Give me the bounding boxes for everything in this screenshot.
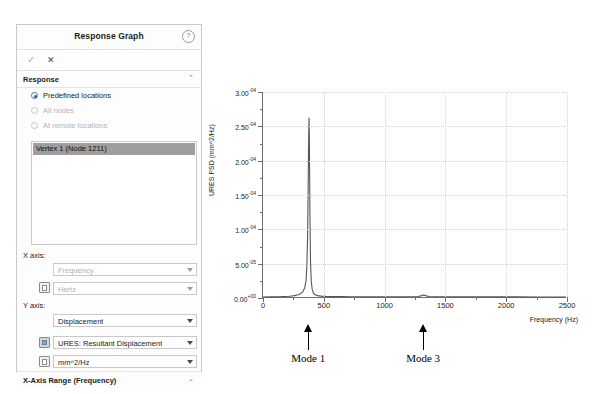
chevron-down-icon[interactable] (187, 319, 193, 323)
close-icon[interactable]: ✕ (45, 54, 57, 66)
radio-indicator (31, 107, 38, 114)
y-axis-tick (258, 264, 263, 265)
help-icon[interactable]: ? (182, 30, 195, 43)
gridline-vertical (385, 92, 386, 297)
radio-label: At remote locations (43, 121, 107, 130)
gridline-horizontal (263, 195, 566, 196)
y-axis-tick (258, 92, 263, 93)
locations-listbox[interactable]: Vertex 1 (Node 1211) (31, 141, 197, 245)
y-axis-tick (258, 126, 263, 127)
radio-indicator (31, 92, 38, 99)
gridline-horizontal (263, 92, 566, 93)
y-axis-minor-tick (260, 178, 263, 179)
radio-indicator (31, 122, 38, 129)
radio-label: Predefined locations (43, 91, 111, 100)
gridline-horizontal (263, 264, 566, 265)
unit-icon (39, 356, 50, 367)
x-axis-tick-label: 2500 (559, 301, 576, 310)
x-axis-tick-label: 0 (261, 301, 265, 310)
y-axis-minor-tick (260, 212, 263, 213)
x-axis-title: Frequency (Hz) (530, 316, 578, 323)
gridline-vertical (445, 92, 446, 297)
y-unit-select[interactable]: mm^2/Hz (53, 355, 197, 368)
gridline-horizontal (263, 229, 566, 230)
gridline-vertical (324, 92, 325, 297)
y-axis-tick-label: 1.50-04 (235, 190, 256, 199)
x-axis-tick-label: 1000 (376, 301, 393, 310)
list-item[interactable]: Vertex 1 (Node 1211) (33, 143, 195, 155)
response-graph-property-panel: Response Graph ? ✓ ✕ Response ⌃ Predefin… (16, 24, 202, 372)
arrow-shaft (308, 330, 310, 350)
x-unit-value: Hertz (58, 285, 76, 294)
section-header-response[interactable]: Response ⌃ (17, 71, 201, 88)
x-quantity-select[interactable]: Frequency (53, 263, 197, 276)
y-component-select[interactable]: URES: Resultant Displacement (53, 336, 197, 349)
chevron-down-icon[interactable] (187, 287, 193, 291)
mode-3-arrow (418, 324, 429, 350)
gridline-vertical (567, 92, 568, 297)
chevron-down-icon[interactable] (187, 268, 193, 272)
x-unit-select[interactable]: Hertz (53, 282, 197, 295)
panel-header: Response Graph ? (17, 25, 201, 50)
gridline-horizontal (263, 126, 566, 127)
radio-at-remote-locations[interactable]: At remote locations (17, 118, 201, 133)
x-axis-minor-tick (476, 297, 477, 300)
radio-all-nodes[interactable]: All nodes (17, 103, 201, 118)
plot-area: 0.00+005.00-051.00-041.50-042.00-042.50-… (262, 92, 566, 298)
x-axis-minor-tick (293, 297, 294, 300)
unit-icon (39, 282, 50, 293)
y-axis-tick (258, 161, 263, 162)
chevron-down-icon[interactable]: ⌄ (188, 375, 194, 383)
chevron-down-icon[interactable] (187, 360, 193, 364)
mode-1-arrow (303, 324, 314, 350)
y-axis-label: Y axis: (23, 301, 45, 310)
y-quantity-value: Displacement (58, 317, 103, 326)
y-axis-minor-tick (260, 144, 263, 145)
x-quantity-value: Frequency (58, 266, 93, 275)
y-axis-tick-label: 2.00-04 (235, 156, 256, 165)
y-axis-tick (258, 195, 263, 196)
y-component-value: URES: Resultant Displacement (58, 339, 162, 348)
y-axis-title: URES PSD (mm^2/Hz) (208, 124, 215, 196)
gridline-horizontal (263, 161, 566, 162)
x-axis-minor-tick (354, 297, 355, 300)
x-axis-minor-tick (537, 297, 538, 300)
page-title: Response Graph (17, 31, 201, 41)
y-axis-tick-label: 2.50-04 (235, 122, 256, 131)
x-axis-label: X axis: (23, 251, 46, 260)
confirm-check-icon[interactable]: ✓ (25, 54, 37, 66)
section-label: Response (23, 75, 59, 84)
mode-3-label: Mode 3 (406, 352, 440, 364)
x-axis-tick-label: 500 (318, 301, 331, 310)
panel-action-bar: ✓ ✕ (17, 50, 201, 71)
y-axis-tick-label: 0.00+00 (234, 293, 256, 302)
y-quantity-select[interactable]: Displacement (53, 314, 197, 327)
gridline-vertical (506, 92, 507, 297)
y-axis-minor-tick (260, 247, 263, 248)
y-axis-tick-label: 3.00-04 (235, 87, 256, 96)
response-graph-chart: URES PSD (mm^2/Hz) Frequency (Hz) 0.00+0… (206, 78, 578, 333)
arrow-shaft (423, 330, 425, 350)
y-axis-minor-tick (260, 281, 263, 282)
x-axis-tick-label: 2000 (498, 301, 515, 310)
section-label: X-Axis Range (Frequency) (23, 376, 116, 385)
x-axis-tick-label: 1500 (437, 301, 454, 310)
section-header-x-axis-range[interactable]: X-Axis Range (Frequency) ⌄ (17, 371, 201, 388)
result-component-icon (39, 337, 50, 348)
radio-label: All nodes (43, 106, 74, 115)
y-unit-value: mm^2/Hz (58, 358, 89, 367)
y-axis-tick-label: 1.00-04 (235, 225, 256, 234)
y-axis-tick (258, 229, 263, 230)
y-axis-minor-tick (260, 109, 263, 110)
mode-1-label: Mode 1 (291, 352, 325, 364)
chevron-down-icon[interactable] (187, 341, 193, 345)
radio-predefined-locations[interactable]: Predefined locations (17, 88, 201, 103)
chevron-up-icon[interactable]: ⌃ (188, 74, 194, 82)
x-axis-minor-tick (415, 297, 416, 300)
y-axis-tick-label: 5.00-05 (235, 259, 256, 268)
